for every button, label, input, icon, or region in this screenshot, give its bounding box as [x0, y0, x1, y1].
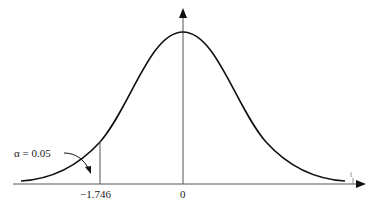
center-label: 0	[180, 188, 186, 200]
x-axis-arrow-icon	[356, 180, 366, 188]
t-distribution-figure: α = 0.05 −1.746 0 t	[0, 0, 381, 203]
y-axis-arrow-icon	[179, 8, 187, 18]
alpha-pointer-arrowhead-icon	[85, 166, 91, 174]
critical-value-label: −1.746	[80, 188, 111, 200]
alpha-pointer	[64, 153, 88, 168]
alpha-label: α = 0.05	[14, 147, 51, 159]
x-axis-label: t	[350, 169, 353, 179]
